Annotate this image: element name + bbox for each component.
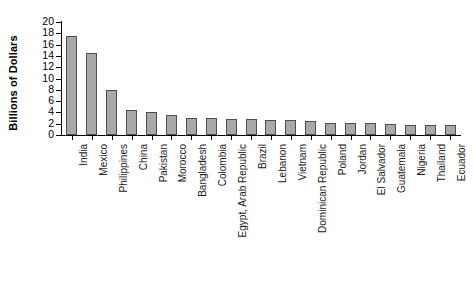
y-axis-title-text: Billions of Dollars	[7, 35, 19, 130]
x-axis-label: Vietnam	[296, 144, 310, 181]
x-axis-label: Pakistan	[157, 144, 171, 182]
x-axis-tick	[171, 136, 172, 140]
x-axis-label: Philippines	[117, 144, 131, 192]
bar	[365, 123, 376, 135]
x-axis-tick	[132, 136, 133, 140]
bar-chart: Billions of Dollars 02468101214161820 In…	[0, 0, 473, 286]
bar	[106, 90, 117, 135]
bar	[405, 125, 416, 135]
x-axis-label: Poland	[336, 144, 350, 175]
bar	[226, 119, 237, 135]
x-axis-label: India	[77, 144, 91, 166]
bar	[206, 118, 217, 136]
bar	[246, 119, 257, 135]
x-axis-tick	[92, 136, 93, 140]
x-axis-label: Dominican Republic	[316, 144, 330, 233]
x-axis-tick	[112, 136, 113, 140]
x-axis-label: Lebanon	[276, 144, 290, 183]
bar	[186, 118, 197, 136]
bar	[265, 120, 276, 135]
x-axis-tick	[191, 136, 192, 140]
x-axis-tick	[370, 136, 371, 140]
bar	[425, 125, 436, 135]
bar	[146, 112, 157, 135]
x-axis-label: El Salvador	[375, 144, 389, 195]
bar	[86, 53, 97, 135]
x-axis-tick	[351, 136, 352, 140]
x-axis-tick	[430, 136, 431, 140]
x-axis-tick	[72, 136, 73, 140]
x-axis-label: Ecuador	[455, 144, 469, 181]
bar	[345, 123, 356, 135]
bar	[305, 121, 316, 135]
plot-area	[62, 22, 460, 135]
x-axis-tick	[231, 136, 232, 140]
x-axis-label: China	[137, 144, 151, 170]
x-axis-label: Guatemala	[395, 144, 409, 193]
x-axis-label: Bangladesh	[196, 144, 210, 197]
x-axis-tick	[291, 136, 292, 140]
x-axis-tick	[211, 136, 212, 140]
bar	[66, 36, 77, 135]
bar	[325, 123, 336, 135]
x-axis-tick	[410, 136, 411, 140]
bar	[385, 124, 396, 135]
x-axis-label: Thailand	[435, 144, 449, 182]
bar	[445, 125, 456, 135]
bar	[126, 110, 137, 135]
x-axis-tick	[251, 136, 252, 140]
x-axis-tick	[152, 136, 153, 140]
x-axis-line	[61, 135, 461, 136]
x-axis-label: Egypt, Arab Republic	[236, 144, 250, 237]
x-axis-tick	[271, 136, 272, 140]
x-axis-label: Morocco	[176, 144, 190, 182]
bar	[166, 115, 177, 135]
bar	[285, 120, 296, 135]
y-axis-title: Billions of Dollars	[2, 18, 24, 148]
x-axis-tick	[450, 136, 451, 140]
x-axis-label: Jordan	[356, 144, 370, 175]
x-axis-label: Mexico	[97, 144, 111, 176]
x-axis-label: Nigeria	[415, 144, 429, 176]
x-axis-tick	[311, 136, 312, 140]
x-axis-label: Colombia	[216, 144, 230, 186]
x-axis-tick	[390, 136, 391, 140]
x-axis-label: Brazil	[256, 144, 270, 169]
x-axis-tick	[331, 136, 332, 140]
